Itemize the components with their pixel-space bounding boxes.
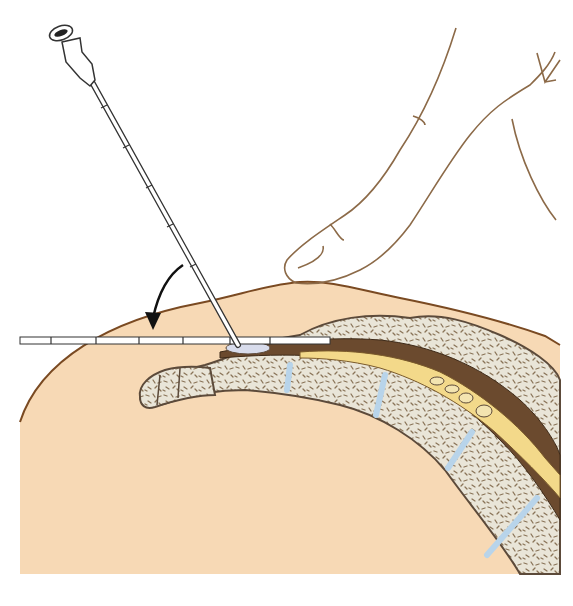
illustration bbox=[0, 0, 573, 606]
needle-angled bbox=[47, 22, 238, 345]
needle-horizontal bbox=[20, 337, 330, 344]
finger bbox=[285, 28, 560, 284]
needle-hub bbox=[47, 22, 95, 86]
